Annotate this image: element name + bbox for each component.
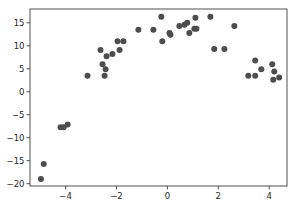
data-point [38, 176, 44, 182]
data-point [159, 38, 165, 44]
x-tick-label: 2 [216, 191, 221, 201]
data-point [167, 32, 173, 38]
data-point [231, 23, 237, 29]
data-point [276, 75, 282, 81]
data-point [221, 46, 227, 52]
y-axis-ticks: −20−15−10−5051015 [7, 18, 30, 189]
data-point [176, 23, 182, 29]
data-point [85, 73, 91, 79]
data-point [115, 38, 121, 44]
y-tick-label: −5 [12, 110, 25, 120]
data-point [103, 66, 109, 72]
data-point [109, 51, 115, 57]
data-point [245, 73, 251, 79]
data-point [258, 66, 264, 72]
data-point [270, 77, 276, 83]
data-point [193, 26, 199, 32]
data-point [100, 61, 106, 67]
y-tick-label: −15 [7, 156, 25, 166]
data-point [102, 73, 108, 79]
data-point [135, 27, 141, 33]
y-tick-label: 10 [14, 41, 25, 51]
plot-background [30, 9, 287, 186]
y-tick-label: 15 [14, 18, 25, 28]
x-tick-label: −4 [59, 191, 72, 201]
data-point [150, 27, 156, 33]
data-point [252, 57, 258, 63]
x-tick-label: −2 [110, 191, 123, 201]
data-point [211, 46, 217, 52]
y-tick-label: 5 [19, 64, 24, 74]
data-point [97, 47, 103, 53]
data-point [207, 14, 213, 20]
data-point [271, 69, 277, 75]
data-point [192, 15, 198, 21]
data-point [65, 121, 71, 127]
data-point [117, 47, 123, 53]
data-point [184, 20, 190, 26]
data-point [269, 61, 275, 67]
y-tick-label: −20 [7, 179, 25, 189]
data-point [252, 73, 258, 79]
scatter-chart: −4−2024 −20−15−10−5051015 [0, 0, 300, 204]
x-tick-label: 4 [266, 191, 271, 201]
data-point [158, 14, 164, 20]
data-point [120, 38, 126, 44]
data-point [41, 161, 47, 167]
x-tick-label: 0 [165, 191, 170, 201]
y-tick-label: −10 [7, 133, 25, 143]
x-axis-ticks: −4−2024 [59, 186, 272, 201]
data-point [186, 30, 192, 36]
data-point [104, 53, 110, 59]
y-tick-label: 0 [19, 87, 24, 97]
